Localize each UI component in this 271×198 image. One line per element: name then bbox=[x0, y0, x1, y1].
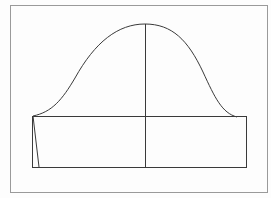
sleeve-body-rectangle bbox=[33, 117, 247, 168]
frame-border bbox=[11, 6, 268, 193]
diagram-canvas bbox=[0, 0, 271, 198]
sleeve-pattern-diagram bbox=[0, 0, 271, 198]
underarm-slant-line bbox=[33, 116, 39, 167]
sleeve-cap-curve bbox=[33, 24, 237, 117]
